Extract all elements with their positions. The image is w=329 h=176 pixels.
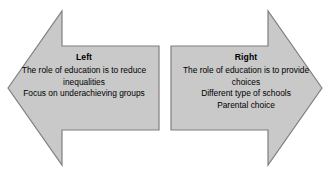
diagram-canvas: Left The role of education is to reduce … [0, 0, 329, 176]
right-arrow-title: Right [172, 52, 320, 64]
right-arrow-line-3: Different type of schools [172, 88, 320, 100]
right-arrow-line-1: The role of education is to provide [172, 65, 320, 77]
right-arrow-label-block: Right The role of education is to provid… [172, 52, 320, 111]
left-arrow-title: Left [10, 52, 158, 64]
right-arrow-line-2: choices [172, 77, 320, 89]
left-arrow-line-2: inequalities [10, 77, 158, 89]
left-arrow-line-3: Focus on underachieving groups [10, 88, 158, 100]
left-arrow-line-1: The role of education is to reduce [10, 65, 158, 77]
left-arrow-label-block: Left The role of education is to reduce … [10, 52, 158, 100]
right-arrow-line-4: Parental choice [172, 100, 320, 112]
